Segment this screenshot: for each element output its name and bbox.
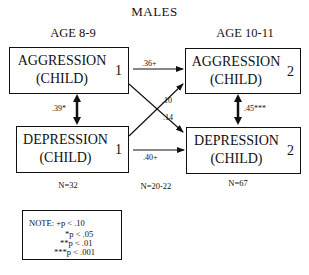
box-label: DEPRESSION [187, 133, 286, 149]
box-time-index: 1 [115, 63, 122, 79]
coef-time1-correlation: .39* [52, 104, 66, 113]
note-row: NOTE: +p < .10 [29, 218, 85, 228]
significance-note: NOTE: +p < .10 *p < .05 **p < .01 ***p <… [22, 210, 122, 260]
coef-depression-stability: .40+ [143, 153, 158, 162]
box-depression-time2: DEPRESSION (CHILD) 2 [186, 127, 301, 174]
box-aggression-time1: AGGRESSION (CHILD) 1 [9, 47, 129, 94]
box-label: DEPRESSION [17, 132, 114, 148]
box-aggression-time2: AGGRESSION (CHILD) 2 [185, 48, 301, 94]
sample-size-time2: N=67 [218, 178, 258, 188]
box-sublabel: (CHILD) [186, 72, 286, 88]
box-sublabel: (CHILD) [10, 71, 114, 87]
box-sublabel: (CHILD) [17, 150, 114, 166]
box-label: AGGRESSION [186, 54, 286, 70]
box-time-index: 2 [287, 64, 294, 80]
coef-time2-correlation: .45*** [244, 104, 266, 113]
coef-aggression1-to-depression2: .14 [163, 113, 173, 122]
sample-size-cross: N=20-22 [130, 181, 182, 191]
sample-size-time1: N=32 [48, 180, 88, 190]
box-label: AGGRESSION [10, 53, 114, 69]
box-depression-time1: DEPRESSION (CHILD) 1 [16, 126, 129, 173]
note-row: ***p < .001 [54, 247, 95, 257]
box-time-index: 2 [287, 143, 294, 159]
box-sublabel: (CHILD) [187, 151, 286, 167]
coef-depression1-to-aggression2: .10 [162, 96, 172, 105]
coef-aggression-stability: .36+ [142, 59, 157, 68]
box-time-index: 1 [115, 142, 122, 158]
